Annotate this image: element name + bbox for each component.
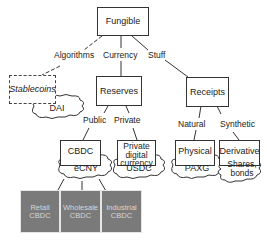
edge-label-natural: Natural xyxy=(178,119,205,129)
example-shares-bonds: Shares, bonds xyxy=(226,158,258,180)
node-industrial-cbdc: Industrial CBDC xyxy=(101,190,142,233)
edge-label-private: Private xyxy=(114,115,140,125)
node-stablecoins: Stablecoins xyxy=(9,75,56,104)
example-dai: DAI xyxy=(34,101,80,115)
node-retail-cbdc: Retail CBDC xyxy=(20,190,60,233)
edge-label-stuff: Stuff xyxy=(148,50,165,60)
example-ecny: eCNY xyxy=(62,161,110,175)
example-paxg: PAXG xyxy=(175,161,219,175)
edge-label-algorithms: Algorithms xyxy=(54,50,94,60)
edge-label-currency: Currency xyxy=(103,50,137,60)
node-wholesale-cbdc: Wholesale CBDC xyxy=(60,190,101,233)
fungible-taxonomy-diagram: Fungible Algorithms Currency Stuff Stabl… xyxy=(0,0,268,249)
node-reserves: Reserves xyxy=(96,76,142,106)
node-receipts: Receipts xyxy=(186,77,229,107)
example-usdc: USDC xyxy=(117,161,161,175)
node-fungible: Fungible xyxy=(97,7,149,36)
edge-label-public: Public xyxy=(83,115,106,125)
edge-label-synthetic: Synthetic xyxy=(220,119,255,129)
